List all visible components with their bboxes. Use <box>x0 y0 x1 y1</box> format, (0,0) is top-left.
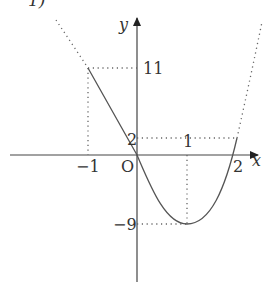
tick-label-x-neg1: −1 <box>76 157 100 176</box>
origin-label: O <box>121 157 134 176</box>
header-fragment: 1) <box>28 0 45 10</box>
tick-label-y-neg9: −9 <box>113 215 137 234</box>
tick-label-x-2: 2 <box>233 157 243 176</box>
tick-label-x-1: 1 <box>183 132 193 151</box>
function-curve <box>88 68 237 224</box>
x-axis-label: x <box>252 151 261 170</box>
y-axis-label: y <box>118 15 129 34</box>
guide-lines <box>56 20 262 224</box>
function-graph: 1) y x O −1 1 2 11 2 −9 <box>0 0 277 295</box>
tick-label-y-11: 11 <box>143 59 163 78</box>
tick-label-y-2: 2 <box>127 130 137 149</box>
